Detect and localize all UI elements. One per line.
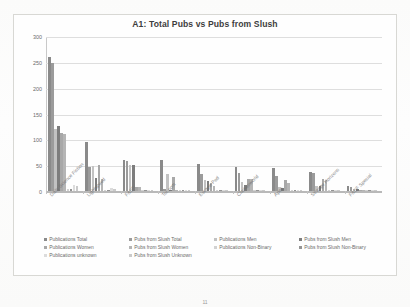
bar-groups [46, 37, 382, 191]
legend-label: Publications Women [49, 245, 94, 250]
legend-item[interactable]: Publications Non-Binary [214, 245, 299, 250]
legend-swatch-icon [44, 246, 47, 249]
bar-group [195, 37, 232, 191]
x-axis-label-cell: F&SF [121, 192, 158, 234]
bar [76, 186, 79, 191]
bar [262, 190, 265, 191]
legend-label: Publications Total [49, 237, 87, 242]
x-axis-label-cell: Apex [270, 192, 307, 234]
legend-item[interactable]: Publications unknown [44, 253, 129, 258]
x-axis-label-cell: F&SF Special [345, 192, 382, 234]
bar-group [121, 37, 158, 191]
legend-item[interactable]: Pubs from Slush Women [129, 245, 214, 250]
y-axis-tick-label: 0 [39, 189, 42, 195]
legend-item[interactable]: Pubs from Slush Non-Binary [299, 245, 384, 250]
x-axis-label-cell: Daily Science Fiction [46, 192, 83, 234]
legend-row: Publications TotalPubs from Slush TotalP… [44, 237, 384, 242]
bar [374, 190, 377, 191]
legend-label: Pubs from Slush Men [304, 237, 351, 242]
chart-container: A1: Total Pubs vs Pubs from Slush 050100… [13, 14, 397, 276]
chart-legend: Publications TotalPubs from Slush TotalP… [44, 237, 384, 262]
bar [300, 190, 303, 191]
legend-label: Publications Men [219, 237, 256, 242]
legend-item[interactable]: Pubs from Slush Unknown [129, 253, 214, 258]
legend-swatch-icon [129, 246, 132, 249]
legend-swatch-icon [44, 238, 47, 241]
y-axis-tick-label: 200 [33, 86, 42, 92]
legend-label: Pubs from Slush Non-Binary [304, 245, 366, 250]
bar-group [83, 37, 120, 191]
chart-title: A1: Total Pubs vs Pubs from Slush [14, 19, 396, 29]
legend-label: Publications unknown [49, 253, 96, 258]
legend-swatch-icon [129, 254, 132, 257]
legend-item[interactable]: Publications Men [214, 237, 299, 242]
bar [225, 190, 228, 191]
bar-group [345, 37, 382, 191]
y-axis-tick-label: 50 [36, 163, 42, 169]
legend-swatch-icon [299, 246, 302, 249]
bar [188, 190, 191, 191]
legend-label: Pubs from Slush Women [134, 245, 188, 250]
legend-row: Publications WomenPubs from Slush WomenP… [44, 245, 384, 250]
bar-group [270, 37, 307, 191]
x-axis-label-cell: Tor.com [158, 192, 195, 234]
bar-group [158, 37, 195, 191]
legend-swatch-icon [299, 238, 302, 241]
x-axis-labels: Daily Science FictionLightspeedF&SFTor.c… [46, 192, 382, 234]
legend-swatch-icon [214, 246, 217, 249]
legend-label: Pubs from Slush Unknown [134, 253, 192, 258]
y-axis-tick-label: 300 [33, 34, 42, 40]
x-axis-label-cell: Clarkesworld [233, 192, 270, 234]
legend-swatch-icon [214, 238, 217, 241]
y-axis-tick-label: 250 [33, 60, 42, 66]
legend-label: Pubs from Slush Total [134, 237, 181, 242]
legend-swatch-icon [44, 254, 47, 257]
x-axis-label-cell: Strange Horizons [307, 192, 344, 234]
y-axis-tick-label: 150 [33, 112, 42, 118]
bar [160, 160, 163, 191]
bar-group [233, 37, 270, 191]
legend-swatch-icon [129, 238, 132, 241]
legend-item[interactable]: Publications Women [44, 245, 129, 250]
x-axis-label-cell: Lightspeed [83, 192, 120, 234]
y-axis-tick-label: 100 [33, 137, 42, 143]
bar [151, 190, 154, 191]
plot-area: 050100150200250300 [46, 37, 382, 192]
page-number: 11 [0, 299, 410, 305]
bar [113, 189, 116, 191]
legend-item[interactable]: Publications Total [44, 237, 129, 242]
legend-item[interactable]: Pubs from Slush Men [299, 237, 384, 242]
legend-row: Publications unknownPubs from Slush Unkn… [44, 253, 384, 258]
legend-item[interactable]: Pubs from Slush Total [129, 237, 214, 242]
bar [337, 190, 340, 191]
legend-label: Publications Non-Binary [219, 245, 271, 250]
x-axis-label-cell: Escape Pod [195, 192, 232, 234]
page-canvas: A1: Total Pubs vs Pubs from Slush 050100… [0, 0, 410, 307]
bar-group [307, 37, 344, 191]
